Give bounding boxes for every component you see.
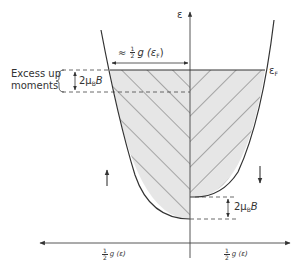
right-axis-label: 1 2 g (ε) xyxy=(224,248,248,261)
width-annotation-label: ≈ 1 2 g (εF) xyxy=(118,46,164,59)
splitting-bottom-suffix: B xyxy=(251,201,258,212)
excess-label-line1: Excess up xyxy=(11,68,61,80)
excess-label-line2: moments xyxy=(11,80,61,92)
width-text: g (ε xyxy=(137,47,156,58)
splitting-top-text: 2μ xyxy=(79,75,92,86)
right-axis-fraction: 1 2 xyxy=(224,248,230,261)
left-axis-text: g (ε) xyxy=(110,250,126,258)
right-axis-fraction-den: 2 xyxy=(224,255,230,261)
dos-diagram xyxy=(0,0,308,272)
right-axis-text: g (ε) xyxy=(232,250,248,258)
excess-up-moments-label: Excess up moments xyxy=(11,68,61,92)
width-fraction: 1 2 xyxy=(130,46,136,59)
left-axis-label: 1 2 g (ε) xyxy=(102,248,126,261)
spin-down-occupied-region xyxy=(190,70,265,197)
energy-axis-label: ε xyxy=(177,10,182,20)
fermi-level-label: εF xyxy=(269,66,278,77)
width-suffix: ) xyxy=(160,47,164,58)
fermi-level-subscript: F xyxy=(274,70,277,77)
left-axis-fraction: 1 2 xyxy=(102,248,108,261)
splitting-label-bottom: 2μBB xyxy=(234,202,258,213)
width-approx: ≈ xyxy=(118,47,126,58)
width-fraction-den: 2 xyxy=(130,53,136,59)
splitting-top-suffix: B xyxy=(96,75,103,86)
splitting-label-top: 2μBB xyxy=(79,76,103,87)
splitting-bottom-text: 2μ xyxy=(234,201,247,212)
left-axis-fraction-den: 2 xyxy=(102,255,108,261)
